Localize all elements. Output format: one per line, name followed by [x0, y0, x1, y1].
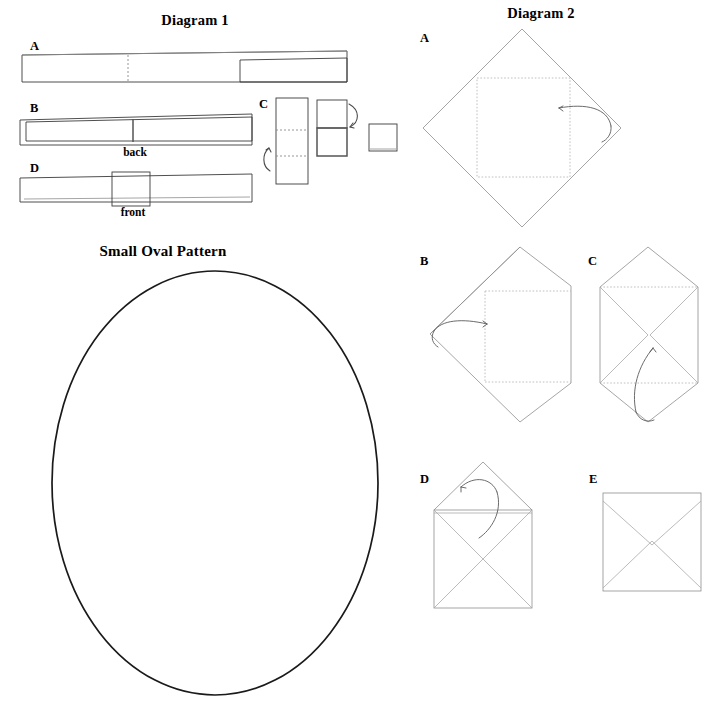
diagram1-step-c-label: C [259, 97, 268, 111]
step-c-square-top [317, 100, 347, 128]
diagram1-step-a-label: A [30, 39, 39, 53]
diagram2-step-e-label: E [589, 472, 597, 486]
diagram1-step-c: C [259, 97, 397, 184]
step2e-lower-left [603, 541, 652, 588]
diagram1-step-b: B back [20, 101, 252, 158]
step2c-outline [600, 247, 698, 422]
oval-pattern-group: Small Oval Pattern [52, 243, 378, 695]
step-d-center-square [112, 172, 150, 206]
diagram2-step-e: E [589, 472, 701, 591]
step2a-diamond [423, 29, 621, 227]
step2e-top-v [603, 501, 701, 545]
step2a-inner-square [477, 78, 570, 177]
step2d-arrow-head [461, 487, 466, 492]
diagram2-step-a: A [420, 29, 621, 227]
diagram2-step-a-label: A [420, 31, 429, 45]
step-c-square-bottom [317, 128, 347, 156]
diagram1-title: Diagram 1 [161, 12, 228, 28]
step2d-arrow-tail [479, 492, 499, 538]
step-c-square-folded [369, 124, 397, 151]
diagram2-step-d-label: D [420, 472, 429, 486]
diagram2-step-c: C [588, 247, 698, 422]
step2d-top-flap [434, 462, 532, 510]
step2a-arrow-head [559, 106, 563, 111]
diagram1-step-d: D front [20, 161, 252, 218]
diagram1-step-d-caption: front [121, 206, 146, 218]
step2e-lower-right [652, 541, 701, 588]
step-a-top-edge [22, 51, 347, 55]
oval-pattern-shape [52, 271, 378, 695]
step-a-strip [22, 51, 347, 82]
step-d-lower-edge [24, 197, 250, 199]
diagram2-step-b-label: B [420, 254, 428, 268]
diagram2-step-d: D [420, 462, 532, 608]
step2e-body [603, 493, 701, 591]
step-a-right-flap [240, 58, 347, 82]
step-c-tall-strip [276, 98, 308, 184]
diagram2-step-b: B [420, 247, 571, 422]
diagram1-step-b-label: B [30, 101, 38, 115]
diagram1-step-a: A [22, 39, 347, 82]
diagram2-step-c-label: C [588, 254, 597, 268]
step2b-edge-upper-left [430, 247, 520, 334]
step2c-right-flap [650, 287, 698, 383]
step2d-arrow [461, 480, 497, 492]
diagram2-title: Diagram 2 [507, 5, 574, 21]
oval-pattern-title: Small Oval Pattern [100, 243, 227, 259]
step-b-strip [20, 114, 252, 145]
sheet-canvas: Diagram 1 A B back D fro [0, 0, 718, 710]
diagram-sheet: Diagram 1 A B back D fro [0, 0, 718, 710]
step-b-inner-strip [26, 117, 252, 141]
step-c-arrow-left-head [266, 148, 271, 152]
diagram1-step-b-caption: back [123, 146, 147, 158]
diagram1-step-d-label: D [30, 161, 39, 175]
step2a-arrow [559, 106, 611, 126]
step2b-outline [430, 247, 571, 422]
step2c-arrow [634, 348, 653, 412]
step-c-arrow-left [264, 148, 270, 171]
